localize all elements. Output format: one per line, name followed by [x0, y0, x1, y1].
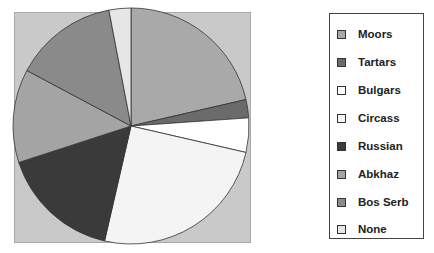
legend-swatch [337, 86, 346, 95]
legend-item-moors: Moors [337, 27, 393, 41]
legend-item-abkhaz: Abkhaz [337, 167, 399, 181]
legend-swatch [337, 30, 346, 39]
legend-item-circass: Circass [337, 111, 400, 125]
legend-swatch [337, 198, 346, 207]
legend-item-none: None [337, 222, 387, 236]
legend-label: Moors [358, 28, 393, 40]
legend-label: Bos Serb [358, 196, 409, 208]
legend-label: Russian [358, 140, 403, 152]
legend-item-tartars: Tartars [337, 55, 396, 69]
legend-item-russian: Russian [337, 139, 403, 153]
legend: Moors Tartars Bulgars Circass Russian Ab… [329, 13, 424, 239]
legend-item-bulgars: Bulgars [337, 83, 401, 97]
legend-swatch [337, 170, 346, 179]
legend-label: None [358, 223, 387, 235]
legend-swatch [337, 142, 346, 151]
legend-label: Circass [358, 112, 400, 124]
legend-swatch [337, 225, 346, 234]
legend-label: Tartars [358, 56, 396, 68]
legend-label: Abkhaz [358, 168, 399, 180]
legend-label: Bulgars [358, 84, 401, 96]
legend-item-bos-serb: Bos Serb [337, 195, 409, 209]
legend-swatch [337, 114, 346, 123]
legend-swatch [337, 58, 346, 67]
